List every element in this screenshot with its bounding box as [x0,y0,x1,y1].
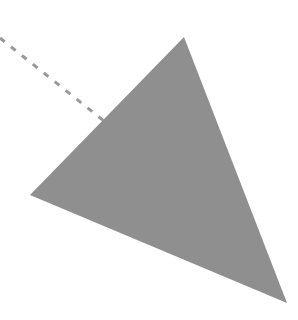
diagram-canvas [0,0,298,320]
